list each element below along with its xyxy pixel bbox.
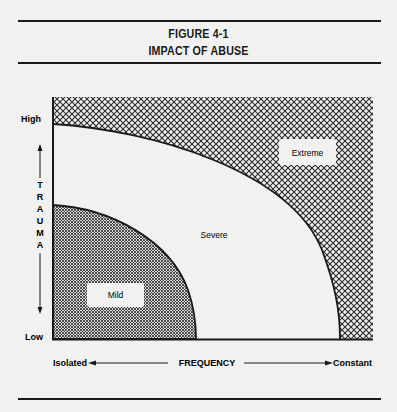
bottom-rule [18, 398, 381, 400]
y-low-label: Low [25, 332, 44, 342]
severe-label: Severe [201, 230, 228, 240]
trauma-letter-m: M [36, 228, 44, 238]
arrow-down-icon [38, 307, 43, 314]
mild-label: Mild [108, 290, 124, 300]
trauma-letter-t: T [37, 180, 43, 190]
trauma-letter-r: R [37, 192, 44, 202]
trauma-letter-u: U [37, 216, 44, 226]
x-right-label: Constant [333, 358, 372, 368]
y-high-label: High [21, 114, 41, 124]
trauma-letter-a2: A [37, 240, 44, 250]
arrow-right-icon [325, 361, 333, 366]
arrow-left-icon [88, 361, 96, 366]
arrow-up-icon [38, 144, 43, 151]
extreme-label: Extreme [292, 148, 324, 158]
impact-diagram: Extreme Severe Mild High Low T R A U M A… [0, 0, 397, 412]
trauma-letter-a: A [37, 204, 44, 214]
x-title: FREQUENCY [179, 358, 236, 368]
x-left-label: Isolated [53, 358, 87, 368]
